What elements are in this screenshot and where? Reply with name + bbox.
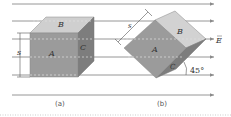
angle-arc: [184, 62, 187, 75]
caption-a: (a): [55, 100, 65, 108]
cube-b: s B A C 45°: [115, 9, 206, 78]
svg-text:E: E: [215, 36, 222, 45]
face-label-b-b: B: [176, 27, 183, 36]
face-label-a-b: A: [151, 45, 158, 54]
dimension-label-b: s: [128, 22, 132, 30]
cube-a: s B A C: [17, 17, 94, 77]
face-label-c-b: C: [170, 63, 176, 71]
field-label-e: E: [215, 36, 222, 45]
face-label-c-a: C: [80, 43, 86, 52]
face-label-b-a: B: [57, 20, 64, 29]
angle-label: 45°: [190, 66, 204, 75]
electric-field-diagram: s B A C s B A C 45° E (a) (b): [0, 0, 231, 117]
face-label-a-a: A: [48, 49, 55, 58]
dimension-label-a: s: [17, 48, 21, 57]
caption-b: (b): [157, 100, 167, 108]
